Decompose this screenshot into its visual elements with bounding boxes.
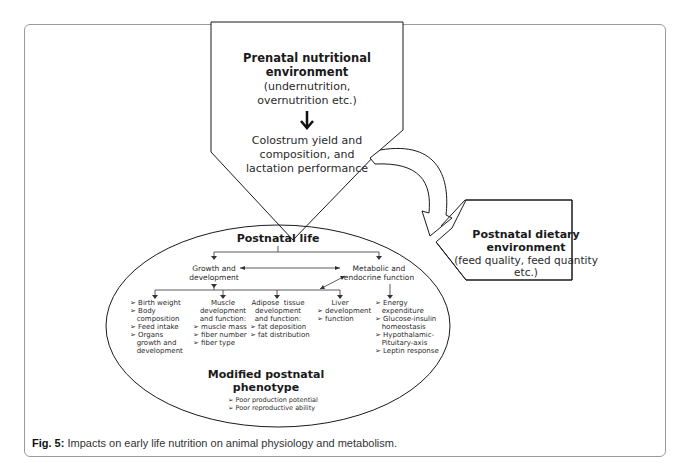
colostrum-2: composition, and bbox=[260, 148, 355, 161]
growth-label-2: development bbox=[189, 273, 239, 282]
colostrum-1: Colostrum yield and bbox=[252, 134, 363, 147]
svg-text:Liver: Liver bbox=[331, 299, 348, 307]
postnatal-life-title: Postnatal life bbox=[237, 232, 320, 245]
phenotype-item-2: ➢ Poor reproductive ability bbox=[228, 404, 315, 412]
svg-text:➢ fat distribution: ➢ fat distribution bbox=[250, 331, 310, 339]
svg-text:➢ fiber number: ➢ fiber number bbox=[193, 331, 247, 339]
caption-label: Fig. 5: bbox=[32, 437, 64, 449]
column-muscle: Muscle development and function: ➢ muscl… bbox=[193, 299, 247, 347]
colostrum-3: lactation performance bbox=[246, 162, 368, 175]
svg-text:and function:: and function: bbox=[255, 315, 301, 323]
phenotype-title-2: phenotype bbox=[233, 381, 299, 394]
svg-text:➢ Body: ➢ Body bbox=[130, 307, 156, 315]
phenotype-title-1: Modified postnatal bbox=[208, 368, 324, 381]
column-liver: Liver ➢ development ➢ function bbox=[317, 299, 372, 323]
svg-text:➢ function: ➢ function bbox=[317, 315, 354, 323]
caption-text: Impacts on early life nutrition on anima… bbox=[64, 437, 397, 449]
svg-text:and function:: and function: bbox=[200, 315, 246, 323]
svg-text:➢ muscle mass: ➢ muscle mass bbox=[193, 323, 247, 331]
svg-text:➢ Glucose-insulin: ➢ Glucose-insulin bbox=[375, 315, 436, 323]
svg-text:➢ Leptin response: ➢ Leptin response bbox=[375, 347, 439, 355]
diagram-canvas: Prenatal nutritional environment (undern… bbox=[0, 0, 686, 475]
column-adipose: Adipose tissue development and function:… bbox=[250, 299, 310, 339]
svg-text:composition: composition bbox=[130, 315, 179, 323]
prenatal-title-2: environment bbox=[266, 65, 349, 79]
prenatal-title-1: Prenatal nutritional bbox=[243, 51, 371, 65]
dietary-title-2: environment bbox=[486, 241, 565, 254]
svg-text:➢ Energy: ➢ Energy bbox=[375, 299, 408, 307]
growth-label-1: Growth and bbox=[192, 264, 236, 273]
svg-text:expenditure: expenditure bbox=[375, 307, 424, 315]
column-metabolic-outcomes: ➢ Energy expenditure ➢ Glucose-insulin h… bbox=[375, 299, 439, 355]
dietary-sub-1: (feed quality, feed quantity bbox=[454, 254, 598, 266]
svg-text:Adipose tissue: Adipose tissue bbox=[252, 299, 305, 307]
svg-text:➢ Organs: ➢ Organs bbox=[130, 331, 164, 339]
phenotype-item-1: ➢ Poor production potential bbox=[228, 396, 318, 404]
svg-text:development: development bbox=[130, 347, 183, 355]
svg-text:homeostasis: homeostasis bbox=[375, 323, 426, 331]
svg-text:development: development bbox=[255, 307, 301, 315]
svg-text:➢ Birth weight: ➢ Birth weight bbox=[130, 299, 181, 307]
svg-text:➢ Hypothalamic-: ➢ Hypothalamic- bbox=[375, 331, 435, 339]
metabolic-label-1: Metabolic and bbox=[353, 264, 406, 273]
prenatal-sub-1: (undernutrition, bbox=[264, 80, 351, 93]
metabolic-label-2: endocrine function bbox=[344, 273, 415, 282]
svg-text:Muscle: Muscle bbox=[211, 299, 235, 307]
svg-text:➢ fat deposition: ➢ fat deposition bbox=[250, 323, 306, 331]
dietary-title-1: Postnatal dietary bbox=[472, 228, 579, 241]
dietary-sub-2: etc.) bbox=[514, 266, 538, 278]
svg-text:growth and: growth and bbox=[130, 339, 176, 347]
svg-text:➢ Feed intake: ➢ Feed intake bbox=[130, 323, 179, 331]
svg-text:development: development bbox=[200, 307, 246, 315]
prenatal-sub-2: overnutrition etc.) bbox=[257, 94, 357, 107]
curved-arrow bbox=[370, 148, 452, 236]
svg-text:➢ development: ➢ development bbox=[317, 307, 372, 315]
svg-text:➢ fiber type: ➢ fiber type bbox=[193, 339, 235, 347]
svg-text:Pituitary-axis: Pituitary-axis bbox=[375, 339, 428, 347]
column-growth-outcomes: ➢ Birth weight ➢ Body composition ➢ Feed… bbox=[130, 299, 183, 355]
figure-caption: Fig. 5: Impacts on early life nutrition … bbox=[32, 437, 397, 449]
